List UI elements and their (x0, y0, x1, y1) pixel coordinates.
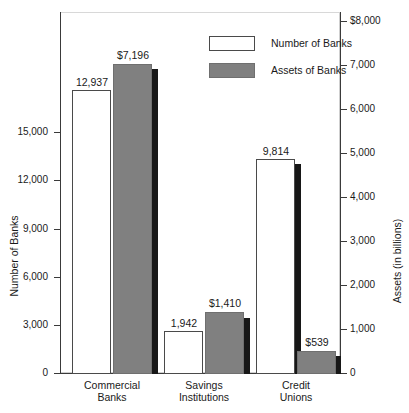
bar-savings-institutions-assets (205, 312, 244, 374)
left-axis-line (60, 12, 61, 374)
left-axis-title: Number of Banks (8, 196, 20, 316)
right-tick-3000 (341, 241, 347, 242)
left-tick-label-15000: 15,000 (17, 127, 48, 137)
bar-commercial-banks-count (72, 90, 111, 374)
right-tick-label-3000: 3,000 (350, 236, 375, 246)
right-tick-label-0: 0 (350, 368, 356, 378)
right-tick-8000 (341, 21, 347, 22)
left-tick-label-12000: 12,000 (17, 175, 48, 185)
bar-shadow-credit-unions-assets-right (336, 356, 341, 374)
right-tick-6000 (341, 109, 347, 110)
left-tick-label-0: 0 (42, 368, 48, 378)
legend-swatch-assets-of-banks (209, 63, 255, 78)
right-tick-4000 (341, 197, 347, 198)
left-tick-15000 (54, 132, 60, 133)
right-tick-5000 (341, 153, 347, 154)
left-tick-label-9000: 9,000 (23, 224, 48, 234)
bar-credit-unions-assets (297, 351, 336, 374)
bar-shadow-savings-institutions-assets (244, 318, 250, 374)
right-tick-2000 (341, 285, 347, 286)
left-tick-0 (54, 373, 60, 374)
right-tick-label-2000: 2,000 (350, 280, 375, 290)
left-tick-6000 (54, 277, 60, 278)
right-tick-0 (341, 373, 347, 374)
right-tick-label-6000: 6,000 (350, 104, 375, 114)
legend-label-assets-of-banks: Assets of Banks (271, 64, 346, 77)
right-tick-label-5000: 5,000 (350, 148, 375, 158)
left-tick-9000 (54, 229, 60, 230)
right-tick-1000 (341, 329, 347, 330)
cut-off-title-strip (0, 0, 409, 6)
value-label-credit-unions-count: 9,814 (236, 146, 316, 157)
value-label-savings-institutions-assets: $1,410 (185, 298, 265, 309)
legend-label-number-of-banks: Number of Banks (271, 37, 352, 50)
left-tick-3000 (54, 325, 60, 326)
value-label-commercial-banks-assets: $7,196 (93, 50, 173, 61)
legend-swatch-number-of-banks (209, 36, 255, 51)
left-tick-12000 (54, 180, 60, 181)
bank-statistics-bar-chart: 15,000 12,000 9,000 6,000 3,000 0 $8,000… (0, 0, 409, 413)
value-label-credit-unions-assets: $539 (277, 337, 357, 348)
right-tick-label-8000: $8,000 (350, 16, 381, 26)
bar-savings-institutions-count (164, 331, 203, 374)
right-axis-title: Assets (in billions) (391, 201, 403, 321)
right-tick-label-1000: 1,000 (350, 324, 375, 334)
right-tick-label-4000: 4,000 (350, 192, 375, 202)
right-tick-label-7000: 7,000 (350, 60, 375, 70)
left-tick-label-6000: 6,000 (23, 272, 48, 282)
left-tick-label-3000: 3,000 (23, 320, 48, 330)
category-label-credit-unions: Credit Unions (241, 379, 351, 403)
